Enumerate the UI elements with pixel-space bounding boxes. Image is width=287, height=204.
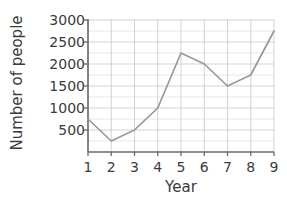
plot-area <box>0 0 287 204</box>
axis-ticks <box>84 20 274 156</box>
line-chart: Number of people 50010001500200025003000… <box>0 0 287 204</box>
x-axis-label: Year <box>88 178 274 196</box>
